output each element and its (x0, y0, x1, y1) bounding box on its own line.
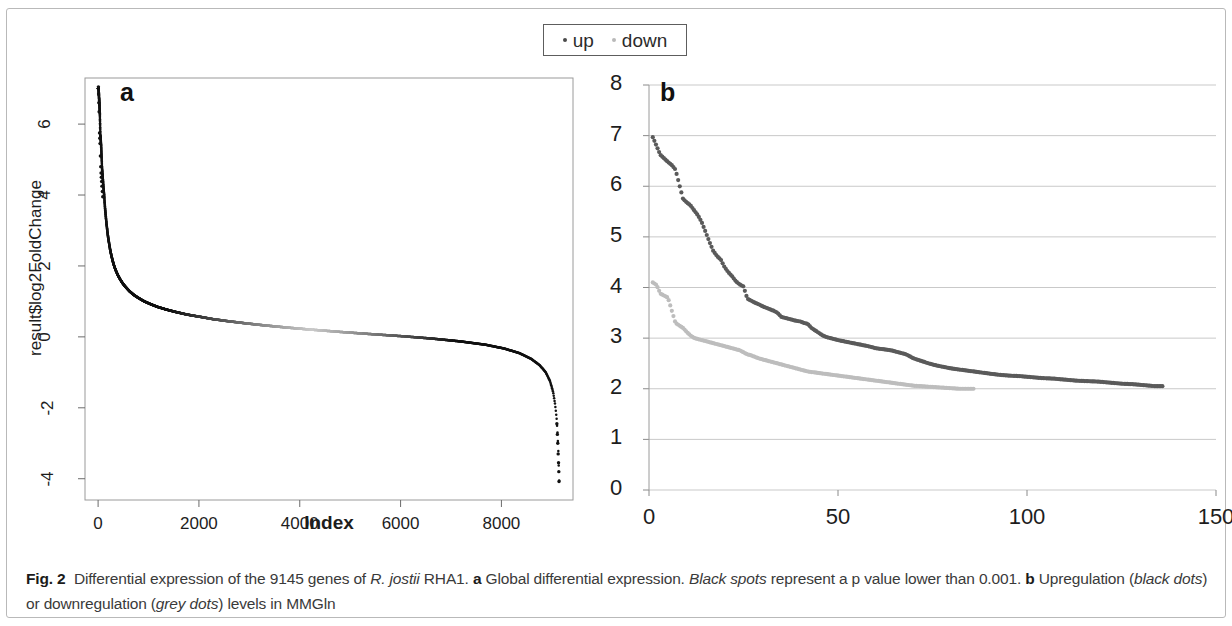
panel-b-y-tick-2: 2 (610, 374, 622, 400)
caption-fig-label: Fig. 2 (26, 570, 66, 587)
caption-text-2: RHA1. (420, 570, 473, 587)
figure-container: up down result$log2FoldChange a -4-20246… (0, 0, 1232, 626)
caption-text-1: Differential expression of the 9145 gene… (74, 570, 370, 587)
panel-b-plot-area (604, 60, 1228, 560)
panel-b-y-tick-4: 4 (610, 273, 622, 299)
panel-b-y-tick-7: 7 (610, 121, 622, 147)
panel-a-y-tick-4: 4 (35, 190, 55, 199)
panel-b-y-tick-3: 3 (610, 323, 622, 349)
caption-text-3: Global differential expression. (481, 570, 689, 587)
panel-b-x-tick-3: 150 (1176, 504, 1232, 530)
panel-b-x-tick-0: 0 (609, 504, 689, 530)
panel-b-chart: b 012345678 050100150 (604, 60, 1228, 560)
panel-a-x-axis-title: Index (85, 512, 573, 534)
caption-panel-b-ref: b (1025, 570, 1034, 587)
legend-entry-down: down (612, 31, 667, 50)
caption-grey-dots: grey dots (156, 595, 218, 612)
panel-b-y-tick-6: 6 (610, 171, 622, 197)
figure-caption: Fig. 2 Differential expression of the 91… (26, 566, 1216, 616)
panel-a-y-tick-0: -4 (38, 471, 58, 486)
caption-text-5: Upregulation ( (1035, 570, 1134, 587)
chart-legend: up down (543, 24, 687, 56)
legend-entry-up: up (563, 31, 594, 50)
panel-b-y-tick-8: 8 (610, 70, 622, 96)
panel-a-y-tick-5: 6 (35, 119, 55, 128)
legend-label-down: down (622, 31, 667, 50)
panel-b-y-tick-5: 5 (610, 222, 622, 248)
caption-black-dots: black dots (1134, 570, 1202, 587)
panel-a-plot-area (0, 60, 600, 560)
caption-black-spots: Black spots (689, 570, 767, 587)
legend-dot-up-icon (563, 38, 567, 42)
panel-b-y-tick-1: 1 (610, 424, 622, 450)
panel-b-y-tick-0: 0 (610, 475, 622, 501)
panel-a-chart: result$log2FoldChange a -4-20246 0200040… (0, 60, 600, 560)
legend-label-up: up (573, 31, 594, 50)
caption-species-name: R. jostii (370, 570, 419, 587)
caption-text-7: ) levels in MMGln (218, 595, 335, 612)
panel-a-y-tick-1: -2 (38, 400, 58, 415)
panel-a-y-tick-3: 2 (35, 261, 55, 270)
panel-a-y-tick-2: 0 (35, 332, 55, 341)
legend-dot-down-icon (612, 38, 616, 42)
panel-b-letter: b (660, 78, 675, 107)
panel-b-x-tick-1: 50 (798, 504, 878, 530)
caption-text-4: represent a p value lower than 0.001. (767, 570, 1026, 587)
panel-a-letter: a (120, 78, 134, 107)
panel-b-x-tick-2: 100 (987, 504, 1067, 530)
